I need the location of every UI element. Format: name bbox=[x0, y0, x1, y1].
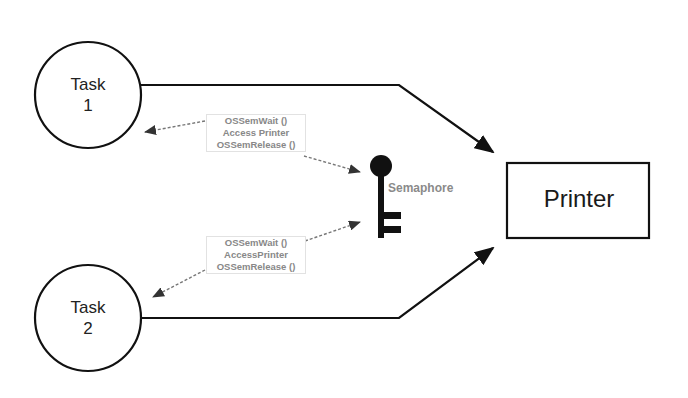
task1-note-line2: Access Printer bbox=[207, 127, 305, 139]
task2-note-line2: AccessPrinter bbox=[207, 249, 305, 261]
task1-label-line1: Task bbox=[38, 74, 138, 95]
task2-note-line1: OSSemWait () bbox=[207, 237, 305, 249]
task2-label-line1: Task bbox=[38, 297, 138, 318]
task2-semaphore-dashed-arrow-a bbox=[305, 222, 360, 241]
task1-note: OSSemWait () Access Printer OSSemRelease… bbox=[206, 114, 306, 152]
task2-note: OSSemWait () AccessPrinter OSSemRelease … bbox=[206, 236, 306, 274]
key-icon bbox=[370, 155, 401, 238]
printer-label: Printer bbox=[510, 185, 648, 213]
task1-note-line1: OSSemWait () bbox=[207, 115, 305, 127]
task2-semaphore-dashed-arrow-b bbox=[153, 270, 205, 297]
task1-semaphore-dashed-arrow-a bbox=[145, 121, 205, 132]
task1-note-line3: OSSemRelease () bbox=[207, 139, 305, 151]
task2-label-line2: 2 bbox=[38, 318, 138, 339]
task1-label-line2: 1 bbox=[38, 95, 138, 116]
task2-to-printer-arrow bbox=[141, 248, 493, 318]
semaphore-label: Semaphore bbox=[388, 181, 453, 195]
task2-note-line3: OSSemRelease () bbox=[207, 261, 305, 273]
task1-semaphore-dashed-arrow-b bbox=[304, 156, 360, 172]
task2-label: Task 2 bbox=[38, 297, 138, 339]
semaphore-diagram: Task 1 Task 2 OSSemWait () Access Printe… bbox=[0, 0, 688, 398]
task1-to-printer-arrow bbox=[141, 85, 493, 152]
task1-label: Task 1 bbox=[38, 74, 138, 116]
